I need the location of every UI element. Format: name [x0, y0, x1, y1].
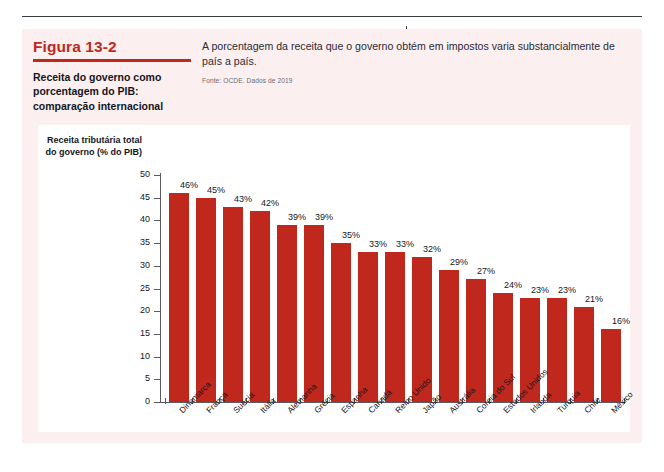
bar	[250, 211, 270, 402]
bar	[277, 225, 297, 402]
panel-bottom-band	[22, 432, 642, 443]
bar-value-label: 27%	[466, 266, 506, 276]
bar	[169, 193, 189, 402]
bar	[601, 329, 621, 402]
y-axis-tick-label: 45	[114, 192, 150, 202]
bar	[466, 279, 486, 402]
y-axis-tick	[154, 289, 161, 290]
x-axis-tick	[165, 398, 166, 404]
y-axis-tick	[154, 198, 161, 199]
figure-description-block: A porcentagem da receita que o governo o…	[202, 39, 627, 84]
figure-panel: Figura 13-2 Receita do governo como porc…	[22, 29, 642, 443]
bar-value-label: 39%	[304, 212, 344, 222]
page-top-rule	[22, 16, 642, 17]
bar-value-label: 16%	[601, 316, 641, 326]
figure-description: A porcentagem da receita que o governo o…	[202, 39, 627, 69]
y-axis-tick-label: 50	[114, 169, 150, 179]
figure-number: Figura 13-2	[33, 38, 201, 56]
y-axis-tick-label: 5	[114, 373, 150, 383]
y-axis-tick	[154, 357, 161, 358]
bar	[358, 252, 378, 402]
y-axis-tick	[154, 334, 161, 335]
figure-source: Fonte: OCDE. Dados de 2019	[202, 77, 627, 84]
y-axis-tick	[154, 379, 161, 380]
figure-title-block: Figura 13-2 Receita do governo como porc…	[33, 38, 201, 113]
bar	[439, 270, 459, 402]
y-axis-tick	[154, 220, 161, 221]
y-axis-tick	[154, 402, 161, 403]
bar	[385, 252, 405, 402]
bar	[223, 207, 243, 402]
y-axis-tick-label: 40	[114, 214, 150, 224]
y-axis-tick-label: 35	[114, 237, 150, 247]
y-axis-tick-label: 20	[114, 305, 150, 315]
x-axis-line	[160, 402, 623, 403]
y-axis-tick-label: 0	[114, 396, 150, 406]
bar-value-label: 32%	[412, 244, 452, 254]
y-axis-tick	[154, 311, 161, 312]
figure-subtitle: Receita do governo como porcentagem do P…	[33, 70, 201, 114]
bar	[331, 243, 351, 402]
bar-value-label: 21%	[574, 294, 614, 304]
bar	[547, 298, 567, 402]
y-axis-tick-label: 15	[114, 328, 150, 338]
figure-number-underline	[33, 59, 191, 62]
bar	[574, 307, 594, 402]
y-axis-tick	[154, 266, 161, 267]
bar	[304, 225, 324, 402]
y-axis-tick-label: 25	[114, 283, 150, 293]
y-axis-tick	[154, 243, 161, 244]
figure-header: Figura 13-2 Receita do governo como porc…	[22, 29, 642, 125]
y-axis-tick	[154, 175, 161, 176]
bar	[196, 198, 216, 402]
y-axis-tick-label: 10	[114, 351, 150, 361]
y-axis-title: Receita tributária total do governo (% d…	[44, 135, 142, 158]
chart-plot-area: Receita tributária total do governo (% d…	[38, 125, 630, 432]
bar-value-label: 42%	[250, 198, 290, 208]
y-axis-tick-label: 30	[114, 260, 150, 270]
